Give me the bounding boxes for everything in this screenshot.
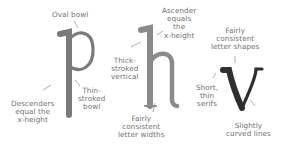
label-letter-widths: Fairly consistent letter widths (118, 115, 165, 140)
label-thin-bowl: Thin- stroked bowl (78, 87, 105, 112)
label-line: x-height (11, 116, 54, 124)
label-serifs: Short, thin serifs (196, 84, 218, 109)
letter-v (223, 69, 262, 108)
label-line: curved lines (226, 130, 271, 138)
label-letter-shapes: Fairly consistent letter shapes (211, 27, 259, 52)
label-curved-lines: Slightly curved lines (226, 122, 271, 138)
label-thick-vertical: Thick- stroked vertical (111, 57, 139, 82)
label-line: serifs (196, 100, 218, 108)
label-oval-bowl: Oval bowl (52, 11, 88, 19)
label-line: x-height (162, 32, 196, 40)
label-line: bowl (78, 103, 105, 111)
label-line: letter shapes (211, 43, 259, 51)
label-descenders: Descenders equal the x-height (11, 100, 54, 125)
label-line: letter widths (118, 131, 165, 139)
label-ascender: Ascender equals the x-height (162, 7, 196, 40)
label-line: vertical (111, 73, 139, 81)
